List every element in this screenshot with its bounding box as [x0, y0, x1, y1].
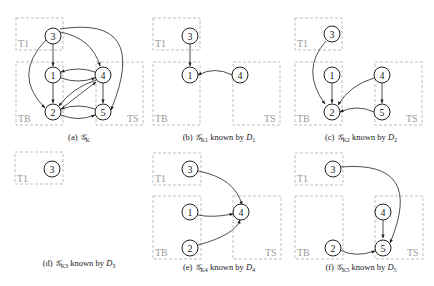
svg-text:3: 3: [50, 164, 55, 175]
panel-b: T1 TB TS 3 1 4 (b) 𝒢K1 known by D1: [153, 18, 280, 143]
node-4: 4: [232, 67, 248, 83]
node-3: 3: [182, 161, 198, 177]
svg-text:1: 1: [188, 70, 193, 81]
node-4: 4: [375, 204, 391, 220]
svg-text:3: 3: [188, 164, 193, 175]
edge-2-5: [61, 115, 95, 119]
svg-text:5: 5: [381, 243, 386, 254]
tier-label-t1: T1: [155, 173, 166, 184]
edge-4-1: [198, 71, 232, 76]
tier-label-tb: TB: [155, 247, 168, 258]
tier-label-ts: TS: [127, 113, 139, 124]
node-5: 5: [95, 104, 111, 120]
svg-text:3: 3: [188, 31, 193, 42]
tier-label-t1: T1: [18, 38, 29, 49]
edge-2-5: [340, 250, 375, 254]
node-2: 2: [182, 240, 198, 256]
edge-5-2: [340, 108, 374, 112]
node-3: 3: [182, 28, 198, 44]
svg-text:4: 4: [239, 207, 244, 218]
svg-text:2: 2: [330, 107, 335, 118]
tier-label-t1: T1: [155, 38, 166, 49]
node-1: 1: [45, 67, 61, 83]
node-1: 1: [182, 67, 198, 83]
svg-text:4: 4: [381, 207, 386, 218]
svg-text:1: 1: [51, 70, 56, 81]
edge-2-4: [61, 82, 96, 109]
caption-f: (f) 𝒢K5 known by D5: [325, 262, 396, 273]
panel-a: T1 TB TS 3 1 4 2 5 (a) 𝒢K: [16, 18, 143, 143]
tier-label-t1: T1: [297, 173, 308, 184]
panel-c: T1 TB TS 3 1 4 2 5 (c) 𝒢K2 known by D2: [295, 18, 422, 143]
node-1: 1: [182, 204, 198, 220]
panel-d: T1 3 (d) 𝒢K3 known by D3: [15, 152, 115, 269]
tier-label-ts: TS: [264, 113, 276, 124]
panel-f: T1 TB TS 3 4 2 5 (f) 𝒢K5 known by D5: [295, 153, 423, 273]
edge-3-4: [60, 32, 100, 66]
tier-label-t1: T1: [17, 173, 28, 184]
node-4: 4: [95, 67, 111, 83]
tier-label-tb: TB: [18, 113, 31, 124]
svg-text:1: 1: [330, 70, 335, 81]
node-4: 4: [374, 67, 390, 83]
svg-text:2: 2: [188, 243, 193, 254]
svg-text:2: 2: [331, 243, 336, 254]
svg-text:5: 5: [101, 107, 106, 118]
edge-3-5: [60, 27, 123, 110]
edge-5-2: [61, 106, 95, 109]
edge-3-5: [341, 166, 400, 243]
edge-4-2: [59, 80, 96, 106]
edge-1-4: [61, 78, 95, 81]
tier-label-ts: TS: [407, 247, 419, 258]
tier-label-tb: TB: [297, 113, 310, 124]
caption-b: (b) 𝒢K1 known by D1: [183, 132, 256, 143]
node-3: 3: [44, 161, 60, 177]
node-3: 3: [45, 28, 61, 44]
causal-graph-figure: T1 TB TS 3 1 4 2 5 (a) 𝒢K T1 TB TS 3: [0, 0, 434, 286]
tier-label-ts: TS: [265, 247, 277, 258]
tier-label-tb: TB: [297, 247, 310, 258]
svg-text:3: 3: [51, 31, 56, 42]
node-4: 4: [233, 204, 249, 220]
svg-text:4: 4: [101, 70, 106, 81]
svg-text:3: 3: [330, 29, 335, 40]
svg-text:3: 3: [331, 164, 336, 175]
caption-d: (d) 𝒢K3 known by D3: [43, 258, 116, 269]
edge-1-4: [198, 214, 233, 216]
svg-text:5: 5: [380, 107, 385, 118]
edge-2-4: [198, 220, 240, 245]
edge-3-4: [198, 171, 242, 205]
node-3: 3: [325, 161, 341, 177]
caption-e: (e) 𝒢K4 known by D4: [183, 262, 255, 273]
panel-e: T1 TB TS 3 1 4 2 (e) 𝒢K4 known by D4: [153, 153, 281, 273]
svg-text:2: 2: [51, 107, 56, 118]
edge-4-2: [338, 78, 374, 105]
svg-text:1: 1: [188, 207, 193, 218]
svg-text:4: 4: [238, 70, 243, 81]
node-5: 5: [375, 240, 391, 256]
tier-label-t1: T1: [297, 38, 308, 49]
caption-a: (a) 𝒢K: [68, 132, 91, 143]
node-2: 2: [324, 104, 340, 120]
edge-4-1: [61, 69, 95, 72]
node-1: 1: [324, 67, 340, 83]
caption-c: (c) 𝒢K2 known by D2: [325, 132, 397, 143]
tier-label-tb: TB: [155, 113, 168, 124]
node-3: 3: [324, 26, 340, 42]
tier-label-ts: TS: [406, 113, 418, 124]
svg-text:4: 4: [380, 70, 385, 81]
node-2: 2: [45, 104, 61, 120]
node-2: 2: [325, 240, 341, 256]
node-5: 5: [374, 104, 390, 120]
